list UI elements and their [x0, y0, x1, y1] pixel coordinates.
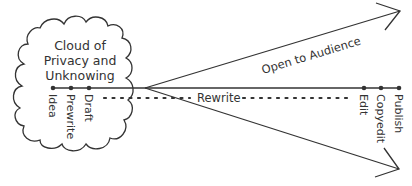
open-arrow-line	[145, 11, 400, 88]
stage-label-publish: Publish	[392, 94, 405, 133]
stage-label-draft: Draft	[82, 94, 95, 122]
stage-label-prewrite: Prewrite	[64, 94, 77, 139]
open-to-audience-label: Open to Audience	[260, 34, 363, 77]
stage-dot-copyedit	[379, 86, 384, 91]
rewrite-label: Rewrite	[197, 91, 240, 105]
stage-dot-prewrite	[69, 86, 74, 91]
cloud-line-2: Privacy and	[44, 53, 117, 68]
stage-dot-draft	[87, 86, 92, 91]
stage-dot-idea	[51, 86, 56, 91]
stage-label-edit: Edit	[357, 94, 370, 116]
stage-label-copyedit: Copyedit	[374, 94, 387, 144]
stage-dot-edit	[362, 86, 367, 91]
cloud-line-3: Unknowing	[45, 68, 114, 83]
stage-dot-publish	[397, 86, 402, 91]
cloud-line-1: Cloud of	[54, 38, 106, 53]
writing-process-diagram: Cloud of Privacy and Unknowing Idea Prew…	[0, 0, 412, 186]
stage-label-idea: Idea	[46, 94, 59, 118]
